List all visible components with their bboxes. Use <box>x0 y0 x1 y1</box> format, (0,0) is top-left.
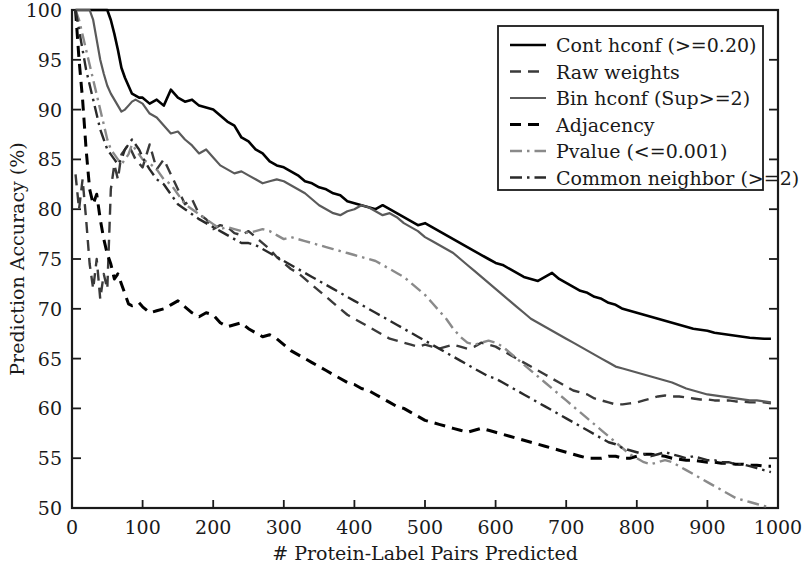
x-tick-label: 100 <box>124 516 160 538</box>
x-tick-label: 600 <box>477 516 513 538</box>
y-tick-label: 60 <box>38 397 62 419</box>
chart-container: 01002003004005006007008009001000 5055606… <box>0 0 805 588</box>
legend-label-2[interactable]: Bin hconf (Sup>=2) <box>556 87 750 109</box>
legend-label-3[interactable]: Adjacency <box>555 114 655 136</box>
x-tick-label: 500 <box>407 516 443 538</box>
x-tick-label: 700 <box>548 516 584 538</box>
x-tick-label: 1000 <box>754 516 802 538</box>
y-tick-label: 50 <box>38 497 62 519</box>
y-tick-label: 95 <box>38 49 62 71</box>
y-tick-label: 65 <box>38 348 62 370</box>
y-tick-label: 80 <box>38 198 62 220</box>
y-tick-label: 100 <box>26 0 62 21</box>
y-tick-label: 90 <box>38 99 62 121</box>
y-tick-label: 55 <box>38 447 62 469</box>
x-tick-label: 0 <box>66 516 78 538</box>
legend-label-0[interactable]: Cont hconf (>=0.20) <box>556 34 756 56</box>
y-tick-label: 75 <box>38 248 62 270</box>
y-axis-title: Prediction Accuracy (%) <box>6 142 28 375</box>
y-tick-label: 70 <box>38 298 62 320</box>
legend-label-5[interactable]: Common neighbor (>=2) <box>556 167 799 189</box>
x-tick-label: 200 <box>195 516 231 538</box>
x-tick-label: 400 <box>336 516 372 538</box>
x-tick-label: 300 <box>266 516 302 538</box>
y-tick-label: 85 <box>38 148 62 170</box>
x-tick-label: 900 <box>689 516 725 538</box>
legend-label-1[interactable]: Raw weights <box>556 61 680 83</box>
x-axis-title: # Protein-Label Pairs Predicted <box>272 542 578 564</box>
x-tick-label: 800 <box>619 516 655 538</box>
legend[interactable]: Cont hconf (>=0.20)Raw weightsBin hconf … <box>498 26 799 190</box>
prediction-accuracy-line-chart: 01002003004005006007008009001000 5055606… <box>0 0 805 588</box>
legend-label-4[interactable]: Pvalue (<=0.001) <box>556 140 728 162</box>
